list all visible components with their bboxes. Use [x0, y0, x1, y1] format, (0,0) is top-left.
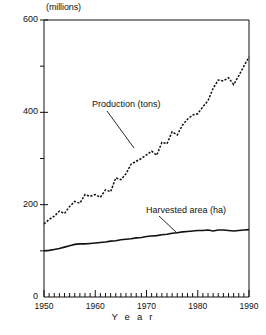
- series-line-production: [44, 57, 249, 224]
- x-tick-label: 1970: [130, 301, 164, 311]
- y-tick-label: 0: [10, 291, 38, 301]
- series-label-harvested: Harvested area (ha): [146, 205, 226, 215]
- axis-frame: [44, 20, 249, 297]
- axes: [44, 20, 249, 297]
- x-axis-title: Y e a r: [0, 311, 266, 322]
- y-tick-label: 200: [10, 199, 38, 209]
- x-tick-label: 1950: [27, 301, 61, 311]
- x-tick-label: 1990: [232, 301, 266, 311]
- x-tick-label: 1960: [78, 301, 112, 311]
- x-axis-ticks: [44, 290, 249, 297]
- chart-figure: (millions) Production (tons) Harvested a…: [0, 0, 266, 335]
- series-layer: [44, 57, 249, 251]
- plot-area: [0, 0, 266, 335]
- y-tick-label: 400: [10, 106, 38, 116]
- series-label-production: Production (tons): [92, 99, 161, 109]
- harvested-leader-line: [159, 216, 177, 233]
- series-line-harvested-area: [44, 230, 249, 251]
- x-tick-label: 1980: [181, 301, 215, 311]
- production-leader-line: [107, 111, 134, 148]
- y-tick-label: 600: [10, 14, 38, 24]
